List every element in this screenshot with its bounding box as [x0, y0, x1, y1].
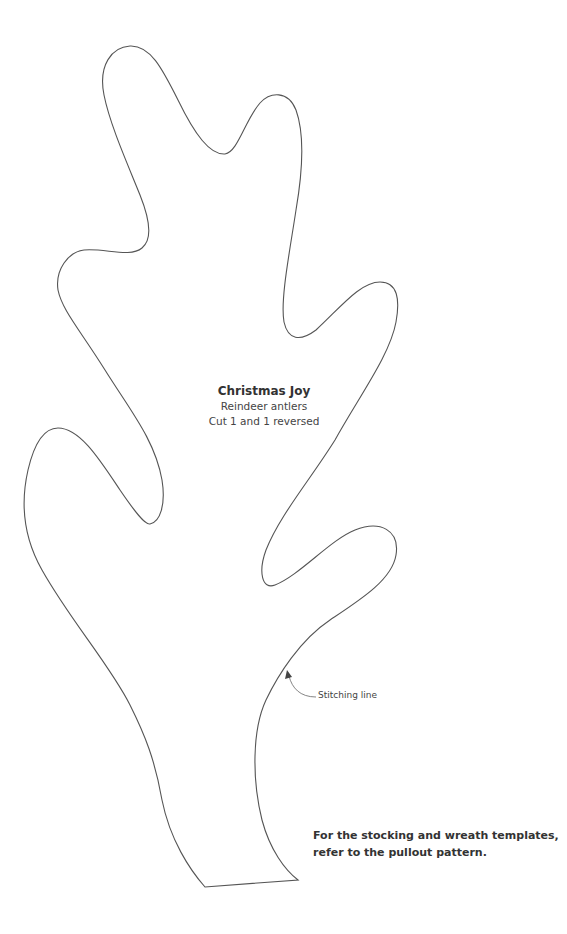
antler-pattern-outline — [0, 0, 567, 934]
pullout-note-line1: For the stocking and wreath templates, — [313, 827, 559, 844]
stitching-arrow-icon — [285, 670, 292, 679]
pullout-note-line2: refer to the pullout pattern. — [313, 844, 559, 861]
pullout-note: For the stocking and wreath templates, r… — [313, 827, 559, 861]
template-instruction: Cut 1 and 1 reversed — [200, 414, 328, 429]
template-subtitle: Reindeer antlers — [200, 399, 328, 414]
template-title: Christmas Joy — [200, 384, 328, 399]
template-label: Christmas Joy Reindeer antlers Cut 1 and… — [200, 384, 328, 429]
stitching-line-leader — [289, 676, 316, 697]
stitching-line-label: Stitching line — [318, 690, 377, 700]
antler-outline-path — [24, 46, 397, 887]
